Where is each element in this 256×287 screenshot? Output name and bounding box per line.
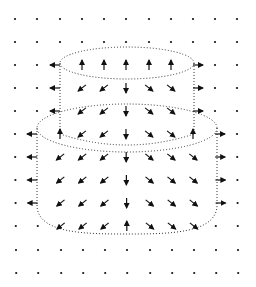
arrow-down-right-icon <box>145 85 153 91</box>
grid-dot <box>14 156 16 158</box>
upper-cylinder-top <box>60 47 194 79</box>
lower-cylinder-top <box>37 104 217 152</box>
arrow-down-right-icon <box>189 154 197 160</box>
grid-dot <box>37 272 39 274</box>
arrow-down-right-icon <box>146 200 154 206</box>
grid-dot <box>36 18 38 20</box>
arrow-down-right-icon <box>167 177 175 183</box>
grid-dot <box>236 179 238 181</box>
grid-dot <box>236 110 238 112</box>
arrow-down-right-icon <box>190 223 198 229</box>
grid-dot <box>215 249 217 251</box>
arrow-down-right-icon <box>167 108 175 114</box>
grid-dot <box>193 272 195 274</box>
grid-dot <box>60 249 62 251</box>
grid-dot <box>15 249 17 251</box>
grid-dot <box>170 18 172 20</box>
grid-dot <box>81 18 83 20</box>
grid-dot <box>215 272 217 274</box>
arrow-down-right-icon <box>167 131 175 137</box>
grid-dot <box>171 272 173 274</box>
grid-dot <box>171 249 173 251</box>
arrow-down-left-icon <box>57 200 65 206</box>
arrow-down-right-icon <box>167 154 175 160</box>
arrow-down-left-icon <box>101 223 109 229</box>
grid-dot <box>37 225 39 227</box>
arrow-down-right-icon <box>145 108 153 114</box>
grid-dot <box>15 202 17 204</box>
arrow-down-left-icon <box>78 131 86 137</box>
arrow-down-left-icon <box>56 154 64 160</box>
grid-dot <box>215 225 217 227</box>
arrow-down-left-icon <box>100 131 108 137</box>
grid-dot <box>15 272 17 274</box>
grid-dot <box>214 41 216 43</box>
arrow-down-left-icon <box>78 177 86 183</box>
arrow-down-left-icon <box>79 200 87 206</box>
arrow-down-right-icon <box>189 177 197 183</box>
grid-dot <box>148 18 150 20</box>
arrow-down-left-icon <box>100 108 108 114</box>
grid-dot <box>149 272 151 274</box>
grid-dot <box>236 64 238 66</box>
vector-field <box>14 18 239 274</box>
arrow-down-right-icon <box>145 131 153 137</box>
grid-dot <box>36 110 38 112</box>
grid-dot <box>236 156 238 158</box>
grid-dot <box>14 41 16 43</box>
arrow-down-left-icon <box>79 223 87 229</box>
grid-dot <box>236 41 238 43</box>
grid-dot <box>236 87 238 89</box>
arrow-down-right-icon <box>168 200 176 206</box>
grid-dot <box>126 249 128 251</box>
grid-dot <box>148 41 150 43</box>
arrow-down-right-icon <box>145 154 153 160</box>
arrow-down-left-icon <box>56 177 64 183</box>
grid-dot <box>14 87 16 89</box>
grid-dot <box>103 41 105 43</box>
grid-dot <box>36 41 38 43</box>
grid-dot <box>82 272 84 274</box>
grid-dot <box>237 202 239 204</box>
grid-dot <box>214 64 216 66</box>
grid-dot <box>236 133 238 135</box>
grid-dot <box>103 18 105 20</box>
arrow-down-right-icon <box>145 177 153 183</box>
grid-dot <box>59 41 61 43</box>
grid-dot <box>237 249 239 251</box>
arrow-down-left-icon <box>101 200 109 206</box>
grid-dot <box>214 87 216 89</box>
grid-dot <box>126 272 128 274</box>
arrow-down-right-icon <box>190 200 198 206</box>
grid-dot <box>82 249 84 251</box>
grid-dot <box>14 64 16 66</box>
grid-dot <box>104 249 106 251</box>
arrow-down-left-icon <box>78 108 86 114</box>
arrow-down-left-icon <box>100 154 108 160</box>
grid-dot <box>125 18 127 20</box>
grid-dot <box>81 41 83 43</box>
grid-dot <box>14 133 16 135</box>
arrow-down-left-icon <box>78 85 86 91</box>
grid-dot <box>192 18 194 20</box>
grid-dot <box>237 272 239 274</box>
grid-dot <box>214 110 216 112</box>
grid-dot <box>125 41 127 43</box>
grid-dot <box>193 249 195 251</box>
grid-dot <box>214 18 216 20</box>
grid-dot <box>59 18 61 20</box>
grid-dot <box>60 272 62 274</box>
arrow-down-right-icon <box>146 223 154 229</box>
grid-dot <box>15 225 17 227</box>
arrow-down-right-icon <box>168 223 176 229</box>
grid-dot <box>14 110 16 112</box>
grid-dot <box>37 249 39 251</box>
arrow-down-right-icon <box>167 85 175 91</box>
grid-dot <box>36 87 38 89</box>
arrow-down-left-icon <box>78 154 86 160</box>
grid-dot <box>237 225 239 227</box>
grid-dot <box>149 249 151 251</box>
grid-dot <box>170 41 172 43</box>
grid-dot <box>14 179 16 181</box>
arrow-down-left-icon <box>100 85 108 91</box>
